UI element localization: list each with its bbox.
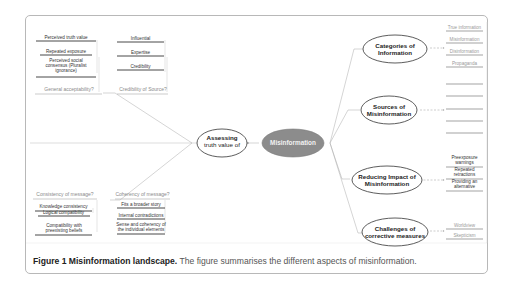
item-label: Worldview — [446, 223, 483, 228]
node-label-line1: Reducing Impact of — [352, 173, 422, 180]
item-label: Knowledge consistency — [35, 204, 92, 209]
question-label: General acceptability? — [36, 87, 102, 92]
node-label-line1: Challenges of — [362, 225, 428, 232]
node-label-line2: Information — [363, 49, 427, 56]
caption-text: The figure summarises the different aspe… — [177, 256, 416, 266]
item-label: Expertise — [117, 50, 164, 55]
question-label: Coherency of message? — [115, 192, 170, 197]
node-label-line1: Sources of — [361, 103, 417, 110]
item-label: Compatibility with preexisting beliefs — [38, 223, 90, 233]
item-label: Perceived social consensus (Pluralist ig… — [38, 58, 94, 74]
item-label: Sense and coherency of the individual el… — [115, 222, 167, 232]
center-node-misinformation: Misinformation — [262, 139, 324, 146]
item-label: Providing an alternative — [446, 179, 483, 189]
node-label-line2: corrective measures — [362, 232, 428, 239]
item-label: Preexposure warnings — [446, 155, 483, 165]
item-label: Influential — [117, 36, 164, 41]
item-label: True information — [446, 25, 483, 30]
figure-caption: Figure 1 Misinformation landscape. The f… — [33, 256, 417, 266]
question-label: Credibility of Source? — [117, 87, 169, 92]
caption-label: Figure 1 Misinformation landscape. — [33, 256, 177, 266]
mind-map-connectors — [0, 0, 509, 284]
item-label: Misinformation — [446, 37, 483, 42]
item-label: Disinformation — [446, 49, 483, 54]
item-label: Skepticism — [446, 233, 483, 238]
item-label: Perceived truth value — [36, 35, 96, 40]
item-label: Logical compatibility — [35, 210, 92, 215]
node-label-line2: Misinformation — [352, 180, 422, 187]
node-label-line1: Categories of — [363, 42, 427, 49]
item-label: Internal contradictions — [117, 213, 165, 218]
item-label: Propaganda — [446, 61, 483, 66]
item-label: Fits a broader story — [117, 202, 165, 207]
question-label: Consistency of message? — [33, 192, 97, 197]
item-label: Repeated retractions — [446, 167, 483, 177]
node-label-line2: Misinformation — [361, 110, 417, 117]
node-label-line2: truth value of — [197, 141, 247, 148]
item-label: Repeated exposure — [36, 49, 96, 54]
item-label: Credibility — [117, 64, 164, 69]
node-label-line1: Assessing — [197, 134, 247, 141]
